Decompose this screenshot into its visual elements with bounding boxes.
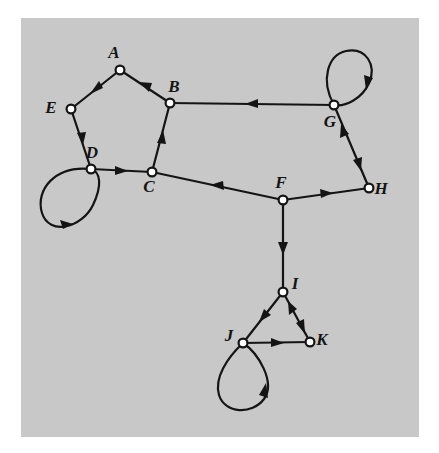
arrowhead-k-i [288, 301, 297, 315]
node-a[interactable] [116, 66, 125, 75]
directed-graph-svg: A B C D E F G H I J K [0, 0, 439, 453]
node-b[interactable] [166, 99, 175, 108]
arrowhead-f-c [210, 181, 224, 190]
self-loop-j [218, 343, 268, 410]
node-g[interactable] [330, 101, 339, 110]
self-loop-d [41, 169, 100, 227]
arrowhead-j-k [271, 338, 284, 347]
arrowhead-g-b [245, 99, 258, 108]
node-f[interactable] [279, 196, 288, 205]
node-d[interactable] [87, 165, 96, 174]
node-j[interactable] [239, 339, 248, 348]
arrowhead-f-i [278, 242, 288, 255]
edge-i-k-bidirectional [283, 292, 310, 342]
arrowhead-self-loop-j [259, 383, 268, 398]
node-layer [67, 66, 374, 348]
arrowhead-d-c [115, 166, 128, 175]
node-label-d: D [85, 143, 98, 162]
node-label-b: B [167, 77, 179, 96]
node-label-a: A [107, 43, 119, 62]
node-label-k: K [315, 330, 329, 349]
edge-layer [41, 50, 372, 410]
node-e[interactable] [67, 105, 76, 114]
arrowhead-i-k [296, 319, 305, 334]
edge-g-h-bidirectional [334, 105, 369, 188]
arrowhead-f-h [320, 189, 333, 198]
arrowhead-g-h [353, 157, 362, 171]
node-h[interactable] [365, 184, 374, 193]
node-k[interactable] [306, 338, 315, 347]
node-label-c: C [143, 177, 155, 196]
node-label-g: G [324, 112, 337, 131]
figure-container: A B C D E F G H I J K [0, 0, 439, 453]
node-label-f: F [274, 173, 287, 192]
node-label-e: E [44, 98, 56, 117]
node-c[interactable] [148, 168, 157, 177]
node-label-j: J [224, 326, 234, 345]
node-i[interactable] [279, 288, 288, 297]
arrowhead-a-e [90, 81, 103, 94]
node-label-h: H [373, 179, 388, 198]
node-label-i: I [291, 274, 300, 293]
